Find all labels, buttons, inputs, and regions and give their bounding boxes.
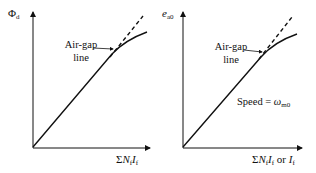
flux-air-gap-line xyxy=(110,16,143,57)
flux-symbol: Φ xyxy=(8,7,16,19)
flux-y-axis-label: Φd xyxy=(8,8,20,23)
flux-subscript: d xyxy=(16,13,20,21)
omega-subscript: m0 xyxy=(281,101,290,109)
flux-air-gap-annotation: Air-gap line xyxy=(62,38,100,64)
annotation-line-1: Air-gap xyxy=(212,40,250,53)
n-symbol: N xyxy=(122,153,129,165)
annotation-line-1: Air-gap xyxy=(62,38,100,51)
emf-x-axis-label: ΣNfIf or If xyxy=(252,154,295,169)
n-symbol: N xyxy=(258,153,265,165)
flux-panel xyxy=(33,12,150,148)
annotation-line-2: line xyxy=(62,51,100,64)
flux-x-axis-label: ΣNfIf xyxy=(116,154,138,169)
or-text: or xyxy=(274,153,289,165)
emf-air-gap-annotation: Air-gap line xyxy=(212,40,250,66)
speed-label: Speed = ωm0 xyxy=(237,96,290,111)
emf-subscript: a0 xyxy=(167,13,174,21)
annotation-line-2: line xyxy=(212,53,250,66)
speed-text: Speed = xyxy=(237,96,274,107)
i-subscript: f xyxy=(136,159,138,167)
alt-i-subscript: f xyxy=(292,159,294,167)
emf-y-axis-label: ea0 xyxy=(162,8,174,23)
diagram-canvas xyxy=(0,0,316,173)
emf-panel xyxy=(183,12,302,148)
